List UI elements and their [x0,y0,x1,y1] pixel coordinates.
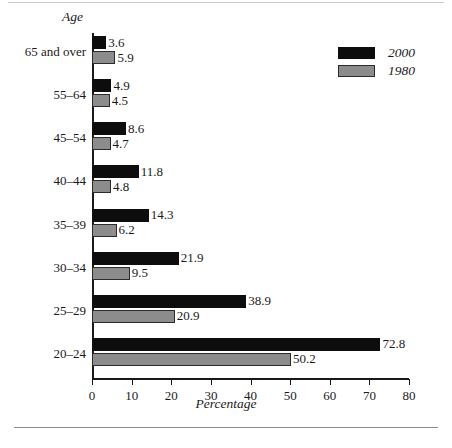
bar-1980: 4.5 [92,94,110,107]
bar-value-label: 4.7 [113,136,129,152]
bar-1980: 4.8 [92,180,111,193]
bar-2000: 11.8 [92,165,139,178]
bar-2000: 4.9 [92,79,111,92]
category-label: 65 and over [0,44,86,60]
category-label: 45–54 [0,130,86,146]
bar-group: 45–548.64.7 [92,122,409,165]
bar-1980: 20.9 [92,310,175,323]
category-label: 35–39 [0,217,86,233]
x-tick [409,379,410,385]
bar-1980: 50.2 [92,353,291,366]
bar-value-label: 5.9 [117,50,133,66]
category-label: 30–34 [0,260,86,276]
bar-group: 25–2938.920.9 [92,295,409,338]
bar-value-label: 4.9 [113,78,129,94]
bar-2000: 38.9 [92,295,246,308]
bar-1980: 9.5 [92,267,130,280]
category-label: 25–29 [0,303,86,319]
bar-value-label: 6.2 [119,222,135,238]
bar-value-label: 4.8 [113,179,129,195]
bottom-divider [14,427,438,428]
top-divider [8,2,444,3]
bar-value-label: 11.8 [141,164,163,180]
bar-value-label: 50.2 [293,351,316,367]
bar-2000: 14.3 [92,209,149,222]
category-label: 40–44 [0,173,86,189]
x-axis-title: Percentage [0,396,452,412]
bar-group: 65 and over3.65.9 [92,36,409,79]
bar-value-label: 8.6 [128,121,144,137]
bar-value-label: 4.5 [112,93,128,109]
bar-value-label: 3.6 [108,35,124,51]
bar-1980: 6.2 [92,224,117,237]
bar-group: 40–4411.84.8 [92,165,409,208]
category-label: 55–64 [0,87,86,103]
bar-value-label: 72.8 [382,336,405,352]
bar-value-label: 21.9 [181,250,204,266]
category-label: 20–24 [0,346,86,362]
bar-value-label: 20.9 [177,308,200,324]
bar-2000: 21.9 [92,252,179,265]
bar-group: 35–3914.36.2 [92,209,409,252]
bar-value-label: 14.3 [151,207,174,223]
bar-2000: 72.8 [92,338,380,351]
y-axis-title: Age [62,9,83,25]
bar-2000: 8.6 [92,122,126,135]
bar-group: 55–644.94.5 [92,79,409,122]
bar-value-label: 9.5 [132,265,148,281]
bar-1980: 4.7 [92,137,111,150]
bar-group: 20–2472.850.2 [92,338,409,381]
bar-chart-figure: Age 2000 1980 01020304050607080 65 and o… [0,0,452,448]
bar-1980: 5.9 [92,51,115,64]
bar-group: 30–3421.99.5 [92,252,409,295]
plot-area: 01020304050607080 65 and over3.65.955–64… [92,33,409,378]
bar-2000: 3.6 [92,36,106,49]
bar-value-label: 38.9 [248,293,271,309]
